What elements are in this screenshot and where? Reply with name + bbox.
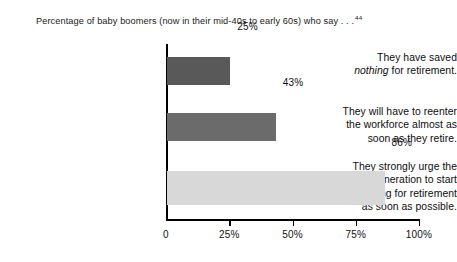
bar-1	[167, 113, 276, 141]
x-tick-mark-2	[293, 220, 294, 226]
chart-title: Percentage of baby boomers (now in their…	[36, 16, 436, 27]
chart-title-footnote: 44	[355, 14, 362, 21]
x-tick-label-0: 0	[163, 229, 169, 240]
chart-figure: Percentage of baby boomers (now in their…	[0, 0, 457, 262]
x-tick-mark-3	[356, 220, 357, 226]
bar-0	[167, 57, 230, 85]
x-tick-label-1: 25%	[219, 229, 240, 240]
plot-area	[166, 44, 419, 220]
bar-value-1: 43%	[283, 77, 304, 88]
bar-value-2: 86%	[392, 137, 413, 148]
x-tick-label-3: 75%	[345, 229, 366, 240]
x-tick-mark-1	[229, 220, 230, 226]
bar-value-0: 25%	[237, 21, 258, 32]
chart-title-text: Percentage of baby boomers (now in their…	[36, 16, 354, 26]
x-tick-label-4: 100%	[406, 229, 432, 240]
bar-2	[167, 171, 385, 205]
x-tick-label-2: 50%	[282, 229, 303, 240]
x-tick-mark-4	[419, 220, 420, 226]
